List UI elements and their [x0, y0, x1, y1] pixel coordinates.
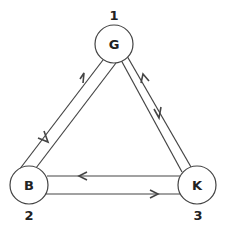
arrowhead-g-to-b [38, 131, 48, 142]
node-b-number: 2 [24, 208, 33, 223]
edge-g-to-k [121, 60, 182, 172]
node-k-label: K [192, 178, 203, 193]
node-g-number: 1 [109, 8, 118, 23]
triangle-graph-diagram: G B K 1 2 3 [0, 0, 227, 229]
edge-k-to-g [127, 56, 191, 167]
node-b-label: B [24, 178, 34, 193]
node-k-number: 3 [193, 208, 202, 223]
edge-b-to-g [36, 63, 116, 168]
node-g-label: G [109, 37, 120, 52]
arrowhead-b-to-g [80, 73, 84, 83]
edge-g-to-b [19, 60, 103, 170]
